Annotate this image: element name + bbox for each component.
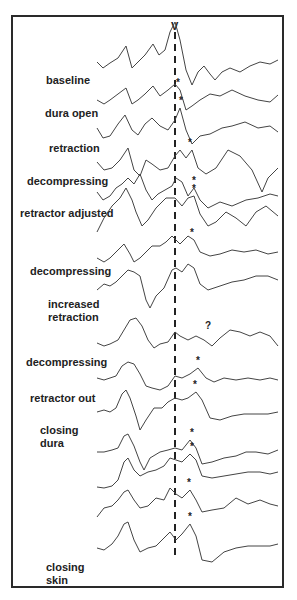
unknown-peak-marker: ? <box>205 320 211 331</box>
peak-star-marker: * <box>192 183 196 194</box>
waveform-trace <box>97 148 278 192</box>
waveform-trace <box>97 522 278 562</box>
peak-star-marker: * <box>190 441 194 452</box>
waveform-trace <box>97 236 278 262</box>
waveform-trace <box>97 84 278 110</box>
peak-star-marker: * <box>196 355 200 366</box>
waveform-trace <box>97 264 278 308</box>
waveform-traces <box>0 0 297 600</box>
waveform-trace <box>97 22 278 85</box>
waveform-trace <box>97 434 278 470</box>
peak-star-marker: * <box>190 427 194 438</box>
peak-star-marker: * <box>190 227 194 238</box>
peak-star-marker: * <box>193 379 197 390</box>
waveform-trace <box>97 390 278 430</box>
waveform-trace <box>97 362 278 390</box>
peak-star-marker: * <box>188 511 192 522</box>
peak-star-marker: * <box>179 95 183 106</box>
peak-star-marker: * <box>187 477 191 488</box>
waveform-trace <box>97 318 278 348</box>
peak-star-marker: * <box>188 137 192 148</box>
peak-star-marker: * <box>176 77 180 88</box>
